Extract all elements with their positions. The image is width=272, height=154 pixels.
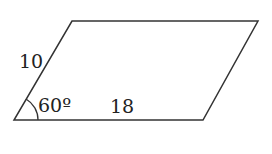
parallelogram-diagram: 10 60º 18 (0, 0, 272, 154)
side-bottom-label: 18 (110, 95, 134, 117)
side-left-label: 10 (19, 50, 43, 72)
angle-label: 60º (38, 94, 71, 116)
angle-arc (26, 99, 38, 120)
